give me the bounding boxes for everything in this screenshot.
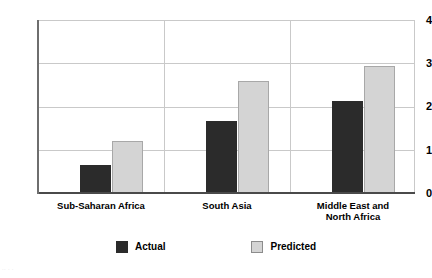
legend-label-predicted: Predicted: [270, 242, 316, 252]
gridline-4: [38, 20, 415, 21]
scan-artifact-text: ·· · ·: [2, 266, 14, 272]
category-label-line: Sub-Saharan Africa: [38, 200, 164, 211]
category-label-line: North Africa: [290, 211, 416, 222]
legend-swatch-actual-icon: [116, 241, 128, 253]
bar-predicted-south-asia: [238, 81, 269, 193]
legend-label-actual: Actual: [135, 242, 166, 252]
category-separator-2: [290, 20, 291, 193]
bar-actual-south-asia: [206, 121, 237, 193]
bar-predicted-middle-east-north-africa: [364, 66, 395, 193]
category-label-line: South Asia: [164, 200, 290, 211]
legend-swatch-predicted-icon: [251, 241, 263, 253]
gridline-3: [38, 63, 415, 64]
legend-item-predicted: Predicted: [251, 241, 316, 253]
category-label-sub-saharan-africa: Sub-Saharan Africa: [38, 200, 164, 211]
y-axis-line: [37, 20, 39, 194]
plot-right-edge: [414, 20, 415, 193]
bar-actual-sub-saharan-africa: [80, 165, 111, 193]
bar-chart: 4 3 2 1 0 Sub-Saharan Africa South Asia …: [0, 0, 432, 278]
legend-item-actual: Actual: [116, 241, 166, 253]
category-separator-1: [164, 20, 165, 193]
chart-legend: Actual Predicted: [0, 241, 432, 253]
category-label-middle-east-north-africa: Middle East and North Africa: [290, 200, 416, 222]
category-label-south-asia: South Asia: [164, 200, 290, 211]
x-axis-baseline: [37, 192, 415, 194]
bar-actual-middle-east-north-africa: [332, 101, 363, 193]
category-label-line: Middle East and: [290, 200, 416, 211]
plot-area: [38, 20, 415, 193]
bar-predicted-sub-saharan-africa: [112, 141, 143, 193]
